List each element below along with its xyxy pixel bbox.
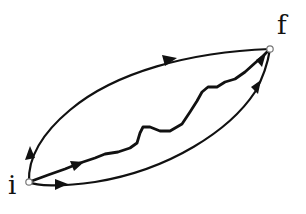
arrow-icon <box>256 53 266 67</box>
final-point <box>267 46 273 52</box>
final-point-label: f <box>277 10 287 40</box>
arrow-icon <box>70 161 84 171</box>
upper-path <box>29 49 270 182</box>
paths-svg <box>0 0 306 214</box>
arrow-icon <box>251 80 261 94</box>
arrow-icon <box>25 146 35 160</box>
initial-point-label: i <box>8 170 16 200</box>
arrow-icon <box>55 179 68 190</box>
initial-point <box>26 179 32 185</box>
